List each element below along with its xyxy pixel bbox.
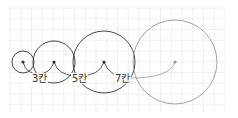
distance-label-3: 7칸 (115, 73, 130, 84)
center-dot-4 (173, 60, 176, 63)
diagram-canvas: 3칸5칸7칸 (0, 0, 238, 118)
distance-label-2: 5칸 (72, 73, 87, 84)
distance-labels: 3칸5칸7칸 (31, 73, 131, 84)
arrow-3-to-4-tail (130, 62, 175, 78)
distance-label-1: 3칸 (32, 73, 47, 84)
center-dot-2 (52, 60, 55, 63)
center-dot-1 (21, 60, 24, 63)
center-dot-3 (102, 60, 105, 63)
